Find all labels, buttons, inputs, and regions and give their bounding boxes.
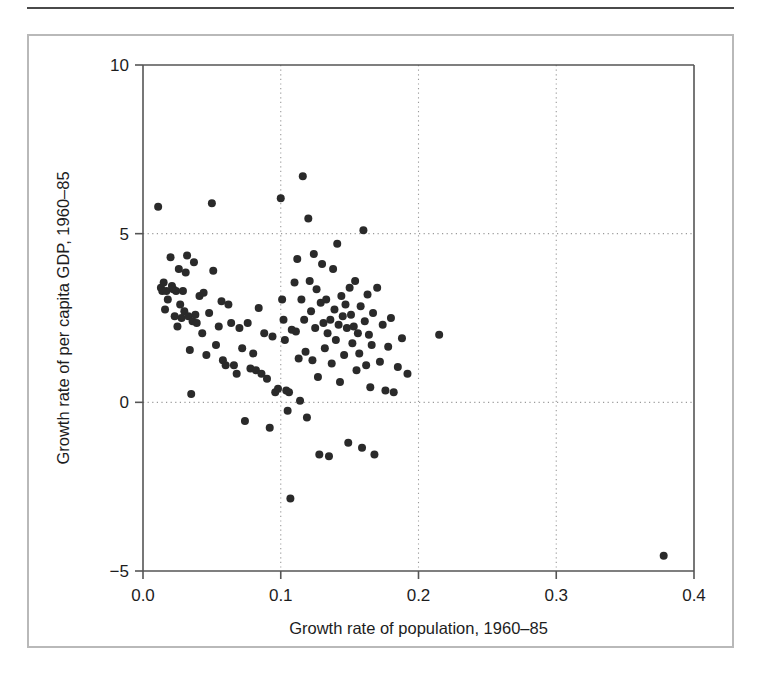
data-point: [373, 284, 381, 292]
data-point: [300, 316, 308, 324]
data-point: [359, 226, 367, 234]
y-tick-label: 0: [120, 393, 129, 412]
data-point: [328, 360, 336, 368]
data-point: [218, 297, 226, 305]
data-point: [350, 322, 358, 330]
data-point: [394, 363, 402, 371]
scatter-plot: 0.00.10.20.30.4 −50510 Growth rate of po…: [29, 36, 732, 646]
data-point: [381, 387, 389, 395]
x-tick-label: 0.0: [131, 586, 155, 605]
data-point: [304, 214, 312, 222]
data-point: [322, 295, 330, 303]
data-point: [299, 172, 307, 180]
data-point: [384, 343, 392, 351]
data-point: [310, 250, 318, 258]
data-point: [435, 331, 443, 339]
data-point: [212, 341, 220, 349]
data-point: [308, 356, 316, 364]
data-point: [202, 351, 210, 359]
data-point: [314, 373, 322, 381]
data-point: [249, 349, 257, 357]
data-point: [293, 255, 301, 263]
data-point: [175, 265, 183, 273]
data-point: [369, 309, 377, 317]
data-point: [274, 385, 282, 393]
data-point: [335, 321, 343, 329]
data-point: [186, 346, 194, 354]
data-point: [354, 329, 362, 337]
y-axis-title: Growth rate of per capita GDP, 1960–85: [54, 171, 72, 464]
data-point: [347, 311, 355, 319]
data-point: [286, 494, 294, 502]
data-point: [341, 301, 349, 309]
data-point: [222, 361, 230, 369]
data-point: [318, 260, 326, 268]
data-point: [325, 452, 333, 460]
data-point: [241, 417, 249, 425]
data-point: [390, 388, 398, 396]
data-point: [379, 321, 387, 329]
data-point: [291, 279, 299, 287]
x-tick-label: 0.2: [407, 586, 431, 605]
data-point: [366, 383, 374, 391]
data-point: [209, 267, 217, 275]
figure-frame: 0.00.10.20.30.4 −50510 Growth rate of po…: [27, 34, 734, 648]
data-point: [277, 194, 285, 202]
data-point: [351, 277, 359, 285]
tick-marks: [135, 65, 694, 579]
data-point: [284, 407, 292, 415]
data-point: [353, 366, 361, 374]
data-point: [280, 316, 288, 324]
data-point: [193, 319, 201, 327]
data-point: [263, 375, 271, 383]
data-point: [227, 319, 235, 327]
data-point: [336, 378, 344, 386]
x-tick-label: 0.3: [544, 586, 568, 605]
data-point: [167, 253, 175, 261]
data-point: [224, 301, 232, 309]
data-point: [160, 279, 168, 287]
data-point: [403, 370, 411, 378]
data-point: [398, 334, 406, 342]
data-point: [346, 284, 354, 292]
data-point: [235, 324, 243, 332]
data-point: [238, 344, 246, 352]
data-point: [200, 289, 208, 297]
data-point: [370, 451, 378, 459]
data-point: [303, 414, 311, 422]
data-point: [171, 312, 179, 320]
data-point: [297, 295, 305, 303]
figure-root: 0.00.10.20.30.4 −50510 Growth rate of po…: [0, 0, 759, 675]
y-tick-label: −5: [110, 562, 129, 581]
data-point: [361, 317, 369, 325]
data-point: [278, 295, 286, 303]
data-point: [173, 322, 181, 330]
data-point: [190, 258, 198, 266]
data-point: [244, 319, 252, 327]
data-point: [387, 314, 395, 322]
y-tick-labels: −50510: [110, 56, 129, 581]
data-point-group: [154, 172, 668, 560]
data-point: [343, 324, 351, 332]
data-point: [183, 252, 191, 260]
data-point: [321, 344, 329, 352]
data-point: [268, 333, 276, 341]
data-point: [154, 203, 162, 211]
data-point: [164, 295, 172, 303]
data-point: [313, 285, 321, 293]
data-point: [302, 348, 310, 356]
x-tick-label: 0.4: [682, 586, 706, 605]
data-point: [191, 311, 199, 319]
data-point: [179, 287, 187, 295]
data-point: [215, 322, 223, 330]
data-point: [365, 331, 373, 339]
data-point: [255, 304, 263, 312]
y-tick-label: 5: [120, 225, 129, 244]
data-point: [260, 329, 268, 337]
x-axis-title: Growth rate of population, 1960–85: [289, 619, 548, 637]
data-point: [319, 319, 327, 327]
data-point: [368, 341, 376, 349]
data-point: [330, 306, 338, 314]
data-point: [355, 349, 363, 357]
data-point: [230, 361, 238, 369]
